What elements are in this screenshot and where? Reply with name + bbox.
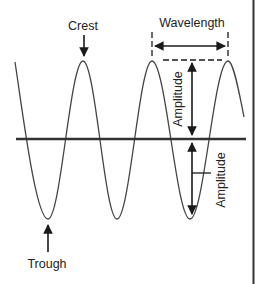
amplitude-upper-label: Amplitude xyxy=(171,71,185,127)
wave-diagram: Crest Trough Wavelength Amplitude Amplit… xyxy=(0,0,255,284)
trough-label: Trough xyxy=(27,257,66,271)
crest-label: Crest xyxy=(68,19,98,33)
amplitude-lower-label: Amplitude xyxy=(214,152,228,208)
wavelength-label: Wavelength xyxy=(159,16,225,30)
